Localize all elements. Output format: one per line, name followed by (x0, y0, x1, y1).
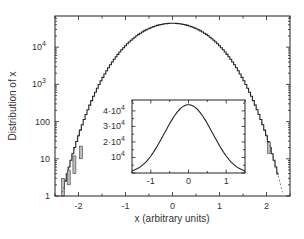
inset-y-tick-label: 3·104 (103, 119, 125, 131)
inset-x-tick-label: -1 (147, 176, 155, 186)
distribution-chart: -2-1012 110100103104 x (arbitrary units)… (0, 0, 304, 239)
x-tick-label: 0 (170, 201, 175, 211)
inset-y-tick-label: 104 (111, 150, 125, 162)
y-tick-label: 10 (40, 154, 50, 164)
x-tick-label: -2 (74, 201, 82, 211)
y-axis-title: Distribution of x (7, 72, 18, 141)
inset-plot: -101 1042·1043·1044·104 (103, 100, 245, 186)
inset-x-tick-label: 0 (186, 176, 191, 186)
x-tick-label: 1 (217, 201, 222, 211)
inset-y-tick-label: 4·104 (103, 104, 125, 116)
x-axis-title: x (arbitrary units) (134, 213, 209, 224)
y-tick-label: 103 (32, 77, 46, 89)
y-tick-label: 104 (32, 40, 46, 52)
inset-x-tick-label: 1 (224, 176, 229, 186)
x-tick-label: 2 (264, 201, 269, 211)
inset-background (132, 100, 245, 173)
inset-y-tick-label: 2·104 (103, 135, 125, 147)
y-tick-label: 1 (45, 191, 50, 201)
x-tick-label: -1 (121, 201, 129, 211)
y-tick-label: 100 (35, 117, 50, 127)
